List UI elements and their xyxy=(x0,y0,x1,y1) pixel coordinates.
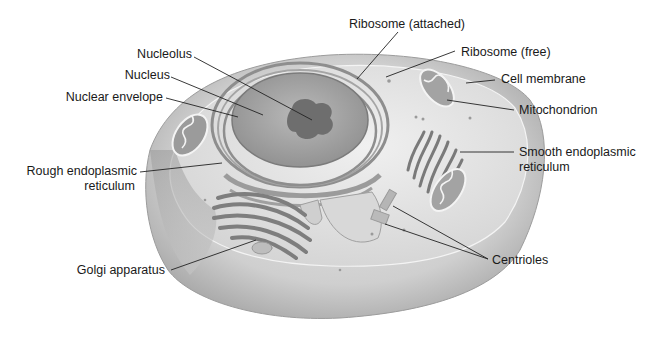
label-nuclear-envelope: Nuclear envelope xyxy=(30,90,163,105)
label-rough-er-line2: reticulum xyxy=(10,179,135,194)
label-ribosome-attached: Ribosome (attached) xyxy=(349,17,465,32)
nucleus xyxy=(232,73,368,167)
label-cell-membrane: Cell membrane xyxy=(501,72,586,87)
label-rough-er-line1: Rough endoplasmic xyxy=(10,164,137,179)
label-smooth-er-line2: reticulum xyxy=(519,160,570,175)
label-mitochondrion: Mitochondrion xyxy=(519,103,598,118)
label-nucleus: Nucleus xyxy=(70,68,170,83)
label-smooth-er-line1: Smooth endoplasmic xyxy=(519,145,636,160)
cell-diagram: Nucleolus Nucleus Nuclear envelope Rough… xyxy=(0,0,650,342)
label-golgi-apparatus: Golgi apparatus xyxy=(40,263,165,278)
label-centrioles: Centrioles xyxy=(492,253,548,268)
label-ribosome-free: Ribosome (free) xyxy=(461,45,551,60)
label-nucleolus: Nucleolus xyxy=(90,47,192,62)
